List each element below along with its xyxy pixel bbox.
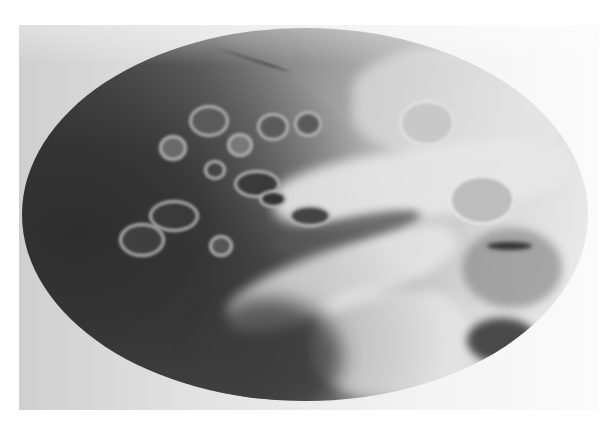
xray-oval-field [22, 28, 588, 401]
air-cell [207, 163, 223, 177]
bone-upper [352, 48, 572, 158]
air-cell [262, 193, 284, 205]
air-cell [237, 173, 277, 195]
air-cell [152, 203, 196, 229]
air-cell [162, 138, 184, 158]
right-slit [487, 242, 532, 250]
air-cell [402, 103, 452, 143]
air-cell [192, 108, 226, 134]
right-cavity [462, 228, 562, 308]
vessel-line [213, 46, 290, 74]
air-cell [260, 116, 286, 138]
lower-right-cavity [467, 318, 537, 363]
air-cell [297, 114, 319, 134]
air-cell [292, 208, 328, 224]
air-cell [122, 226, 162, 254]
xray-film [19, 25, 599, 410]
air-cell [212, 238, 230, 254]
air-cell [452, 178, 512, 222]
air-cell [230, 136, 250, 154]
